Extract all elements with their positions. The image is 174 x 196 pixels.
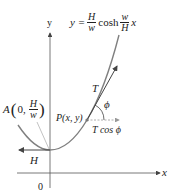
angle-arc (95, 105, 104, 120)
equation-label: y = Hw cosh wH x (70, 12, 136, 33)
point-a-label: A ( 0, Hw ) (3, 99, 45, 120)
y-axis-label: y (47, 18, 52, 28)
equation-var: x (131, 17, 136, 28)
point-a-leader (37, 122, 49, 149)
x-axis-label: x (162, 167, 167, 178)
origin-label: 0 (38, 182, 43, 192)
point-p-label: P(x, y) (56, 113, 83, 123)
equation-lhs: y = (70, 17, 85, 28)
equation-cosh: cosh (98, 17, 118, 28)
equation-fraction-2: wH (120, 12, 129, 33)
point-p (85, 118, 88, 121)
angle-label: ϕ (104, 99, 110, 110)
equation-fraction-1: Hw (87, 12, 96, 33)
horizontal-component-label: T cos ϕ (92, 125, 121, 135)
tension-label: T (92, 83, 98, 94)
h-label: H (30, 155, 38, 166)
